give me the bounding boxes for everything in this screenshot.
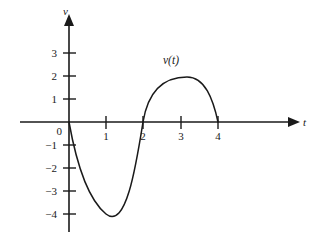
x-tick-label-4: 4 xyxy=(208,131,228,142)
x-tick-label-2: 2 xyxy=(133,131,153,142)
y-tick-label-3: 3 xyxy=(33,48,57,59)
y-tick-label-minus-4: −4 xyxy=(33,209,57,220)
velocity-curve xyxy=(69,77,218,217)
curve-label: v(t) xyxy=(163,55,179,67)
x-tick-label-1: 1 xyxy=(96,131,116,142)
y-tick-label-2: 2 xyxy=(33,71,57,82)
y-tick-label-minus-2: −2 xyxy=(33,163,57,174)
x-axis-label: t xyxy=(303,117,306,128)
x-tick-label-3: 3 xyxy=(171,131,191,142)
y-axis-label: v xyxy=(63,6,68,17)
velocity-time-graph-figure: v t 3 2 1 −1 −2 −3 −4 0 1 2 3 4 v(t) xyxy=(0,0,313,252)
y-tick-label-1: 1 xyxy=(33,94,57,105)
y-tick-label-minus-3: −3 xyxy=(33,186,57,197)
y-tick-label-minus-1: −1 xyxy=(33,140,57,151)
x-axis-arrow-icon xyxy=(288,117,300,127)
origin-label-0: 0 xyxy=(38,126,62,137)
